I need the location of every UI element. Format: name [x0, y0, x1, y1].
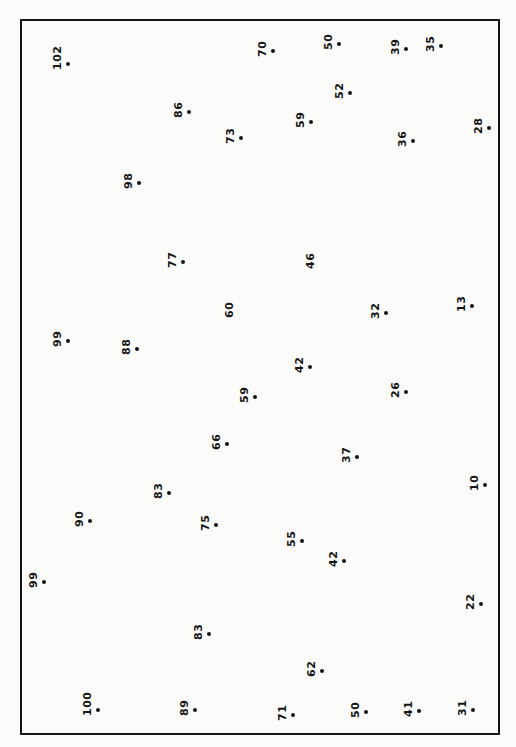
point-label: 102: [52, 46, 63, 70]
point-dot-icon: [135, 347, 139, 351]
point-label: 46: [305, 253, 316, 269]
point-dot-icon: [355, 455, 359, 459]
point-label: 36: [397, 131, 408, 147]
point-label: 13: [456, 296, 467, 312]
point-dot-icon: [404, 47, 408, 51]
point-label: 88: [121, 339, 132, 355]
point-label: 41: [403, 701, 414, 717]
point-dot-icon: [342, 559, 346, 563]
point-dot-icon: [348, 91, 352, 95]
point-dot-icon: [239, 136, 243, 140]
point-dot-icon: [320, 669, 324, 673]
point-dot-icon: [88, 519, 92, 523]
point-dot-icon: [487, 126, 491, 130]
point-label: 26: [390, 382, 401, 398]
point-label: 83: [193, 624, 204, 640]
point-label: 83: [153, 483, 164, 499]
point-dot-icon: [471, 708, 475, 712]
point-dot-icon: [214, 523, 218, 527]
point-label: 50: [350, 702, 361, 718]
point-dot-icon: [404, 390, 408, 394]
point-dot-icon: [300, 539, 304, 543]
point-label: 90: [74, 511, 85, 527]
point-dot-icon: [66, 339, 70, 343]
point-dot-icon: [137, 181, 141, 185]
point-label: 42: [294, 357, 305, 373]
point-label: 99: [52, 331, 63, 347]
point-label: 86: [173, 102, 184, 118]
point-label: 31: [457, 700, 468, 716]
point-dot-icon: [439, 44, 443, 48]
point-dot-icon: [417, 709, 421, 713]
point-label: 39: [390, 39, 401, 55]
point-dot-icon: [483, 483, 487, 487]
point-dot-icon: [193, 708, 197, 712]
point-dot-icon: [253, 395, 257, 399]
point-dot-icon: [364, 710, 368, 714]
point-label: 10: [469, 475, 480, 491]
point-label: 71: [277, 705, 288, 721]
point-label: 62: [306, 661, 317, 677]
point-dot-icon: [479, 602, 483, 606]
point-label: 37: [341, 447, 352, 463]
point-dot-icon: [96, 708, 100, 712]
point-dot-icon: [181, 260, 185, 264]
point-dot-icon: [411, 139, 415, 143]
point-label: 55: [286, 531, 297, 547]
point-dot-icon: [187, 110, 191, 114]
point-dot-icon: [291, 713, 295, 717]
point-dot-icon: [384, 311, 388, 315]
point-label: 50: [323, 34, 334, 50]
point-label: 75: [200, 515, 211, 531]
point-dot-icon: [167, 491, 171, 495]
point-dot-icon: [308, 365, 312, 369]
point-label: 59: [295, 112, 306, 128]
point-label: 70: [257, 41, 268, 57]
point-label: 22: [465, 594, 476, 610]
point-label: 52: [334, 83, 345, 99]
point-dot-icon: [309, 120, 313, 124]
plot-frame: [20, 19, 500, 735]
point-dot-icon: [337, 42, 341, 46]
point-dot-icon: [42, 580, 46, 584]
point-dot-icon: [225, 442, 229, 446]
point-label: 98: [123, 173, 134, 189]
point-dot-icon: [271, 49, 275, 53]
point-label: 66: [211, 434, 222, 450]
point-label: 99: [28, 572, 39, 588]
point-label: 59: [239, 387, 250, 403]
point-label: 89: [179, 700, 190, 716]
point-dot-icon: [207, 632, 211, 636]
point-label: 42: [328, 551, 339, 567]
point-label: 100: [82, 692, 93, 716]
point-dot-icon: [470, 304, 474, 308]
point-label: 28: [473, 118, 484, 134]
point-dot-icon: [66, 62, 70, 66]
point-label: 35: [425, 36, 436, 52]
point-label: 60: [224, 302, 235, 318]
point-label: 73: [225, 128, 236, 144]
point-label: 77: [167, 252, 178, 268]
point-label: 32: [370, 303, 381, 319]
